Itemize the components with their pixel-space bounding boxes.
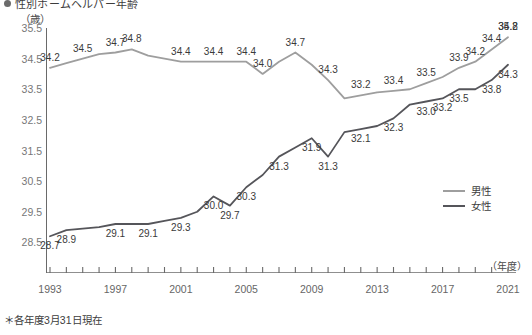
y-axis-tick: 35.5 [4, 22, 42, 34]
data-label: 33.4 [384, 76, 403, 86]
legend-item-male[interactable]: 男性 [443, 183, 491, 198]
data-label: 31.3 [318, 162, 337, 172]
x-axis-tick: 2001 [169, 283, 192, 295]
x-axis-tick: 1993 [38, 283, 61, 295]
data-label: 35.2 [498, 22, 517, 32]
y-axis-tick: 34.5 [4, 53, 42, 65]
y-axis-tick: 32.5 [4, 114, 42, 126]
data-label: 33.5 [449, 94, 468, 104]
x-axis-tick: 2013 [365, 283, 388, 295]
data-label: 34.2 [40, 53, 59, 63]
data-label: 34.4 [171, 47, 190, 57]
data-label: 30.3 [237, 192, 256, 202]
x-axis-tick: 2017 [431, 283, 454, 295]
data-label: 29.3 [171, 223, 190, 233]
x-axis-tick: 2005 [235, 283, 258, 295]
x-axis-tick: 2021 [496, 283, 519, 295]
data-label: 29.1 [106, 229, 125, 239]
y-axis-tick: 33.5 [4, 83, 42, 95]
data-label: 34.8 [122, 34, 141, 44]
legend-swatch [443, 205, 465, 207]
data-label: 28.9 [57, 235, 76, 245]
data-label: 34.3 [498, 70, 517, 80]
plot-area: 34.234.534.734.834.434.434.434.034.734.3… [46, 28, 516, 273]
data-label: 34.2 [466, 47, 485, 57]
legend-swatch [443, 190, 465, 192]
x-axis-tick: 1997 [104, 283, 127, 295]
data-label: 31.3 [269, 162, 288, 172]
data-label: 34.4 [482, 34, 501, 44]
legend-label: 女性 [471, 198, 491, 213]
data-label: 29.1 [138, 229, 157, 239]
data-label: 33.8 [482, 85, 501, 95]
data-label: 34.4 [237, 47, 256, 57]
legend: 男性女性 [443, 183, 491, 213]
y-axis-tick-labels: 35.534.533.532.531.530.529.528.5 [0, 0, 42, 335]
data-label: 34.7 [286, 38, 305, 48]
legend-label: 男性 [471, 183, 491, 198]
data-label: 34.5 [73, 44, 92, 54]
data-label: 32.3 [384, 123, 403, 133]
data-label: 32.1 [351, 134, 370, 144]
y-axis-tick: 31.5 [4, 145, 42, 157]
data-label: 33.2 [433, 103, 452, 113]
data-label: 34.4 [204, 47, 223, 57]
data-label: 29.7 [220, 211, 239, 221]
y-axis-tick: 29.5 [4, 206, 42, 218]
y-axis-tick: 30.5 [4, 175, 42, 187]
data-label: 34.3 [318, 65, 337, 75]
data-label: 33.5 [416, 68, 435, 78]
x-axis-tick: 2009 [300, 283, 323, 295]
y-axis-tick: 28.5 [4, 236, 42, 248]
footnote: ＊各年度3月31日現在 [4, 312, 102, 327]
chart-container: 性別ホームヘルパー年齢 （歳） 35.534.533.532.531.530.5… [0, 0, 532, 335]
data-label: 33.2 [351, 80, 370, 90]
legend-item-female[interactable]: 女性 [443, 198, 491, 213]
data-label: 31.9 [302, 143, 321, 153]
data-label: 34.0 [253, 59, 272, 69]
